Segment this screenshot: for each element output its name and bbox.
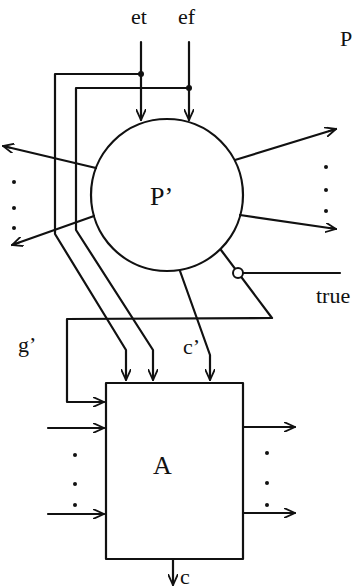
g-prime-label: g’ (18, 332, 36, 357)
automaton-box (106, 383, 243, 559)
left-ellipsis-dot (12, 180, 16, 184)
c-output-label: c (180, 564, 190, 588)
A-left-ellipsis-dot (73, 453, 77, 457)
negation-bubble-icon (233, 268, 243, 278)
left-ellipsis-dot (12, 206, 16, 210)
p-prime-right-output-bottom (240, 215, 336, 229)
inner-process-label: P’ (150, 182, 173, 211)
diagram-canvas: P et ef P’ c’ true g’ A c (0, 0, 363, 588)
p-prime-right-output-top (235, 129, 336, 160)
p-prime-left-output-top (3, 146, 96, 168)
right-ellipsis-dot (324, 165, 328, 169)
true-label: true (316, 283, 350, 308)
ef-branch-to-A (76, 88, 189, 380)
right-ellipsis-dot (324, 209, 328, 213)
c-prime-label: c’ (183, 334, 200, 359)
input-label-ef: ef (178, 4, 196, 29)
process-label-P: P (340, 26, 352, 51)
A-right-ellipsis-dot (265, 451, 269, 455)
A-right-ellipsis-dot (265, 503, 269, 507)
A-left-ellipsis-dot (73, 503, 77, 507)
c-prime-arrow (180, 271, 210, 380)
right-ellipsis-dot (324, 188, 328, 192)
A-left-ellipsis-dot (73, 482, 77, 486)
automaton-label: A (153, 451, 172, 480)
left-ellipsis-dot (12, 226, 16, 230)
A-right-ellipsis-dot (265, 481, 269, 485)
input-label-et: et (131, 4, 147, 29)
